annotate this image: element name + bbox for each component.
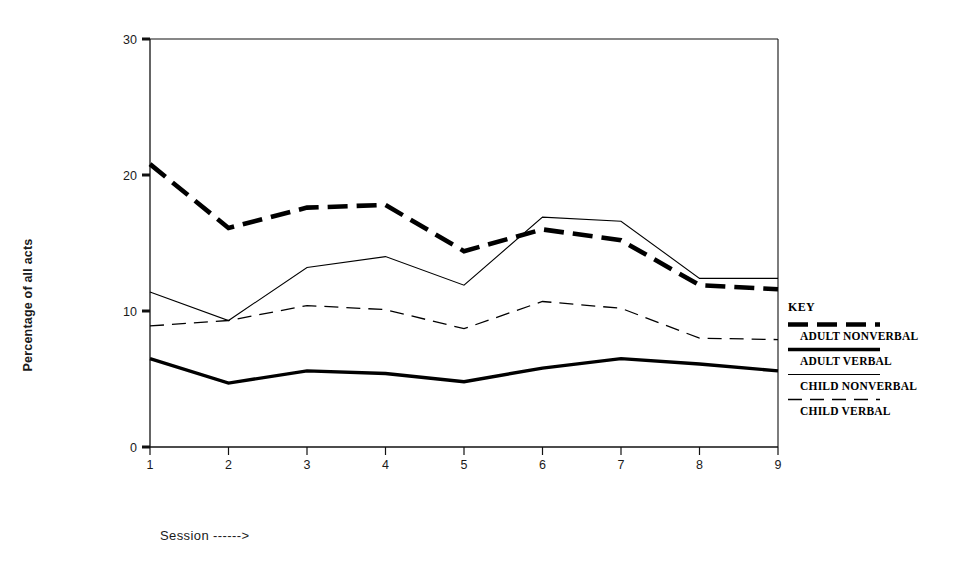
x-tick-label: 6 (539, 458, 546, 472)
legend-item-child-nonverbal: CHILD NONVERBAL (786, 370, 966, 392)
x-tick-label: 1 (147, 458, 154, 472)
x-tick-label: 8 (696, 458, 703, 472)
y-tick-label: 10 (123, 305, 137, 319)
series-line-adult-nonverbal (150, 164, 778, 289)
x-axis-title: Session ------> (160, 528, 249, 543)
legend-label: ADULT VERBAL (800, 355, 966, 367)
legend-label: CHILD NONVERBAL (800, 380, 966, 392)
legend-title: KEY (788, 300, 966, 315)
legend-swatch-thin-dashed (788, 395, 880, 404)
legend-swatch-thick-dashed (788, 320, 880, 329)
y-tick-label: 0 (130, 441, 137, 455)
y-tick-label: 20 (123, 169, 137, 183)
legend-item-child-verbal: CHILD VERBAL (786, 395, 966, 417)
chart-figure: Percentage of all acts 0102030123456789 … (0, 0, 969, 574)
series-line-child-verbal (150, 301, 778, 339)
series-line-child-nonverbal (150, 217, 778, 320)
x-tick-label: 9 (775, 458, 782, 472)
legend-swatch-thick-solid (788, 345, 880, 354)
legend-swatch-thin-solid (788, 370, 880, 379)
legend-item-adult-verbal: ADULT VERBAL (786, 345, 966, 367)
line-chart-plot: 0102030123456789 (0, 0, 969, 574)
x-tick-label: 2 (225, 458, 232, 472)
chart-legend: KEY ADULT NONVERBALADULT VERBALCHILD NON… (786, 300, 966, 420)
x-tick-label: 4 (382, 458, 389, 472)
legend-label: ADULT NONVERBAL (800, 330, 966, 342)
x-tick-label: 3 (304, 458, 311, 472)
x-tick-label: 7 (618, 458, 625, 472)
legend-item-adult-nonverbal: ADULT NONVERBAL (786, 320, 966, 342)
legend-label: CHILD VERBAL (800, 405, 966, 417)
y-tick-label: 30 (123, 33, 137, 47)
x-tick-label: 5 (461, 458, 468, 472)
series-line-adult-verbal (150, 359, 778, 383)
